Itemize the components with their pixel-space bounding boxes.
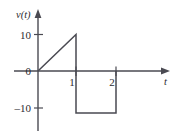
y-axis-label: v(t) — [16, 9, 31, 21]
plot-canvas: v(t) t 10 0 –10 1 2 — [0, 0, 178, 135]
x-axis-label: t — [164, 76, 168, 87]
y-tick-label-minus-10: –10 — [14, 102, 32, 114]
waveform-trace — [38, 35, 116, 114]
x-tick-label-2: 2 — [109, 76, 115, 88]
y-tick-label-0: 0 — [26, 65, 32, 77]
y-axis-arrowhead — [35, 9, 42, 18]
waveform-figure: v(t) t 10 0 –10 1 2 — [0, 0, 178, 135]
y-tick-label-10: 10 — [20, 29, 32, 41]
x-axis-arrowhead — [161, 68, 170, 75]
x-tick-label-1: 1 — [69, 76, 75, 88]
